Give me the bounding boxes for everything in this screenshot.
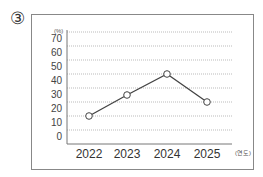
y-tick-label: 50	[51, 61, 63, 72]
data-points	[86, 71, 211, 120]
y-tick-labels: 706050403020100	[51, 33, 63, 142]
data-point-marker	[164, 71, 171, 78]
data-line	[89, 74, 207, 116]
y-tick-label: 10	[51, 117, 63, 128]
data-point-marker	[204, 99, 211, 106]
y-tick-label: 70	[51, 33, 63, 44]
y-tick-label: 0	[56, 131, 62, 142]
x-tick-labels: 2022202320242025	[76, 147, 221, 161]
x-unit-label: (연도)	[235, 149, 251, 156]
y-tick-label: 60	[51, 47, 63, 58]
data-point-marker	[86, 113, 93, 120]
y-tick-label: 20	[51, 103, 63, 114]
x-tick-label: 2022	[76, 147, 103, 161]
x-tick-label: 2023	[114, 147, 141, 161]
x-tick-label: 2025	[194, 147, 221, 161]
data-point-marker	[124, 92, 131, 99]
y-tick-label: 40	[51, 75, 63, 86]
x-tick-label: 2024	[154, 147, 181, 161]
y-tick-label: 30	[51, 89, 63, 100]
line-chart: (%) 706050403020100 2022202320242025 (연도…	[0, 0, 263, 177]
